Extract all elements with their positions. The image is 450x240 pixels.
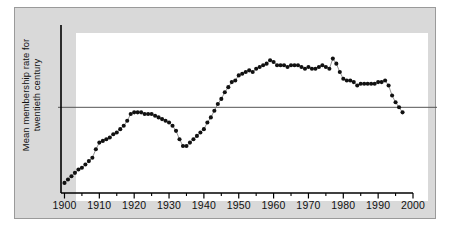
axis-lines (61, 25, 413, 193)
axis-ticks (64, 193, 413, 199)
x-tick-label-2000: 2000 (393, 199, 433, 211)
series-data-points (62, 57, 404, 185)
series-line (64, 59, 402, 183)
figure-container: Mean membership rate for twentieth centu… (0, 0, 450, 240)
